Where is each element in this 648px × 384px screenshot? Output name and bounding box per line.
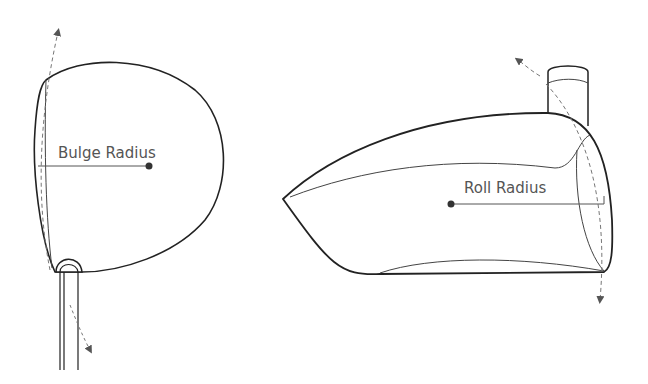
roll-radius-label: Roll Radius: [464, 179, 547, 197]
roll-center-dot: [448, 201, 455, 208]
shaft: [60, 272, 78, 370]
head-outline: [283, 113, 612, 274]
bulge-center-dot: [146, 163, 153, 170]
golf-driver-radius-diagram: Bulge Radius Roll Radius: [0, 0, 648, 384]
head-outline: [34, 62, 223, 272]
bulge-view: Bulge Radius: [34, 32, 223, 370]
bulge-radius-label: Bulge Radius: [58, 144, 156, 162]
roll-view: Roll Radius: [283, 60, 612, 300]
